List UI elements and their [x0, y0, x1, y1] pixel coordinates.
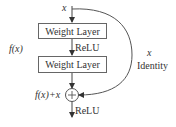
function-label: f(x): [9, 44, 23, 54]
shortcut-var-label: x: [147, 48, 151, 58]
weight-layer-1-label: Weight Layer: [45, 26, 99, 37]
relu-mid-label: ReLU: [75, 43, 99, 53]
shortcut-identity-label: Identity: [137, 61, 168, 71]
weight-layer-2: Weight Layer: [38, 56, 107, 73]
weight-layer-1: Weight Layer: [38, 23, 107, 39]
relu-out-label: ReLU: [75, 106, 99, 116]
sum-label: f(x)+x: [35, 90, 60, 100]
weight-layer-2-label: Weight Layer: [45, 59, 99, 70]
input-label: x: [62, 3, 66, 13]
